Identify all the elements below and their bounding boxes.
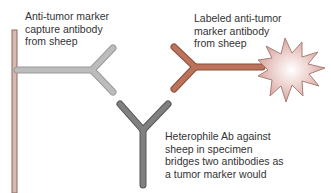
solid-phase-plate xyxy=(12,30,17,193)
capture-antibody xyxy=(17,48,113,92)
heterophile-antibody xyxy=(120,104,168,185)
capture-antibody-label: Anti-tumor marker capture antibody from … xyxy=(25,10,109,48)
labeled-antibody xyxy=(174,47,262,89)
labeled-antibody-label: Labeled anti-tumor marker antibody from … xyxy=(194,12,282,50)
heterophile-antibody-label: Heterophile Ab against sheep in specimen… xyxy=(165,130,284,180)
